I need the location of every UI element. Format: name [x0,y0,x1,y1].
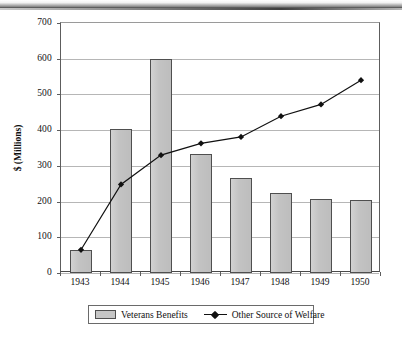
x-axis-tick [380,272,381,276]
filled-rectangle-icon [95,310,116,319]
x-axis-tick-label: 1949 [311,277,330,287]
x-axis-tick [300,272,301,276]
legend-entry-other-source-of-welfare: Other Source of Welfare [204,310,325,320]
y-axis-tick-labels: 0100200300400500600700 [0,0,58,339]
x-axis-tick-label: 1946 [191,277,210,287]
x-axis-tick [180,272,181,276]
line-data-point-marker [318,101,324,107]
y-axis-tick-label: 300 [18,160,52,170]
plot-area [60,22,380,272]
line-data-point-marker [278,113,284,119]
x-axis-tick-label: 1943 [71,277,90,287]
x-axis-tick [100,272,101,276]
legend-label-veterans-benefits: Veterans Benefits [121,310,188,320]
line-data-point-marker [238,134,244,140]
y-axis-tick-label: 200 [18,196,52,206]
y-axis-tick-label: 100 [18,231,52,241]
line-with-diamond-marker-icon [204,310,227,319]
legend-label-other-source-of-welfare: Other Source of Welfare [232,310,325,320]
y-axis-tick-label: 600 [18,53,52,63]
x-axis-tick-label: 1948 [271,277,290,287]
x-axis-tick [220,272,221,276]
x-axis-tick [340,272,341,276]
line-series-other-source-of-welfare [61,23,381,273]
y-axis-tick-label: 700 [18,17,52,27]
x-axis-tick-label: 1945 [151,277,170,287]
x-axis-tick-label: 1947 [231,277,250,287]
chart-legend: Veterans Benefits Other Source of Welfar… [88,305,314,324]
x-axis-tick [140,272,141,276]
y-axis-tick-label: 0 [18,267,52,277]
bar-line-combo-chart: $ (Millions) 0100200300400500600700 1943… [0,0,402,339]
y-axis-tick-label: 500 [18,88,52,98]
legend-entry-veterans-benefits: Veterans Benefits [95,310,188,320]
x-axis-tick [60,272,61,276]
y-axis-tick-label: 400 [18,124,52,134]
line-data-point-marker [358,77,364,83]
x-axis-tick-label: 1950 [351,277,370,287]
line-data-point-marker [198,140,204,146]
x-axis-tick-labels: 19431944194519461947194819491950 [60,277,380,293]
line-data-point-marker [78,247,84,253]
x-axis-tick-label: 1944 [111,277,130,287]
x-axis-tick [260,272,261,276]
